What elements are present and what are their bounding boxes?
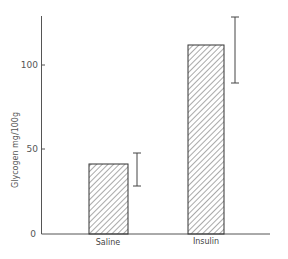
- bar-insulin: [188, 45, 224, 234]
- y-tick-label-100: 100: [21, 60, 38, 70]
- y-axis-title: Glycogen mg/100g: [11, 112, 20, 188]
- error-bar-insulin: [231, 17, 239, 83]
- category-label-insulin: Insulin: [193, 237, 219, 246]
- y-tick-label-0: 0: [30, 229, 36, 239]
- error-bar-saline: [133, 153, 141, 186]
- y-tick-label-50: 50: [27, 144, 39, 154]
- bar-saline: [89, 164, 128, 234]
- chart: 0 50 100 Glycogen mg/100g Saline Insulin: [0, 0, 288, 259]
- category-label-saline: Saline: [96, 238, 120, 247]
